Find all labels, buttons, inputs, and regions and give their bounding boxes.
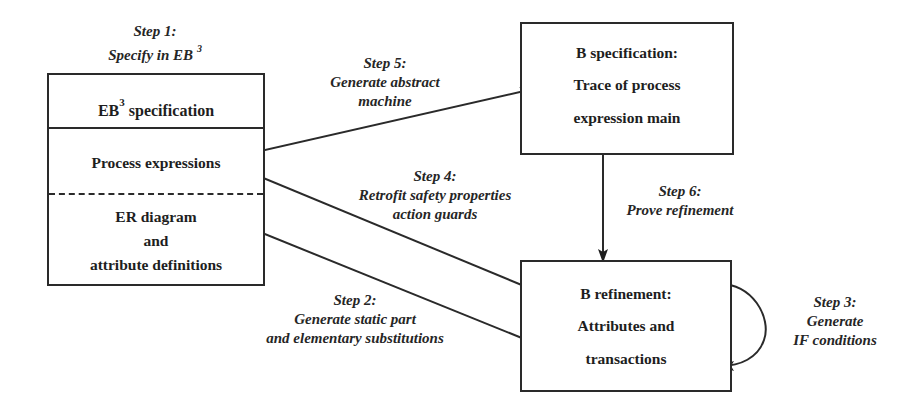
eb3-specification-box: EB3 specification Process expressions ER… [47,73,265,286]
er-diagram-line1: ER diagram [49,209,263,225]
step1-desc: Specify in EB 3 [95,41,215,65]
process-expressions-section: Process expressions [49,155,263,171]
section-divider [49,193,263,195]
step3-label: Step 3: Generate IF conditions [770,293,900,350]
step1-label: Step 1: Specify in EB 3 [95,22,215,65]
step5-label: Step 5: Generate abstract machine [305,54,465,111]
b-specification-title: B specification: [522,45,732,61]
step2-label: Step 2: Generate static part and element… [240,291,470,348]
eb3-specification-title: EB3 specification [49,101,263,119]
er-diagram-line2: and [49,233,263,249]
title-divider [49,127,263,129]
step6-label: Step 6: Prove refinement [615,182,745,220]
step4-label: Step 4: Retrofit safety properties actio… [335,167,535,224]
b-refinement-title: B refinement: [522,286,730,302]
er-diagram-line3: attribute definitions [49,257,263,273]
b-refinement-line1: Attributes and [522,318,730,334]
step1-title: Step 1: [95,22,215,41]
b-specification-box: B specification: Trace of process expres… [520,22,734,155]
b-specification-line2: expression main [522,110,732,126]
b-specification-line1: Trace of process [522,77,732,93]
b-refinement-box: B refinement: Attributes and transaction… [520,260,732,392]
b-refinement-line2: transactions [522,351,730,367]
